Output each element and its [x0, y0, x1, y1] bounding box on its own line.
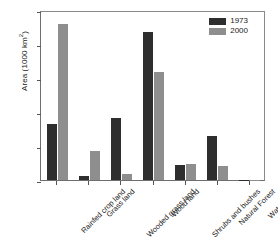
- bar-group: [73, 12, 105, 180]
- bar-series-container: [41, 12, 264, 180]
- bar-2000: [90, 151, 100, 180]
- bar-1973: [143, 32, 153, 180]
- bar-2000: [186, 164, 196, 180]
- legend-swatch-1973: [209, 18, 226, 25]
- legend-label-1973: 1973: [230, 17, 248, 25]
- x-axis-tick: [217, 181, 218, 185]
- bar-1973: [207, 136, 217, 180]
- x-axis-tick: [88, 181, 89, 185]
- bar-1973: [175, 165, 185, 180]
- x-axis-tick: [153, 181, 154, 185]
- bar-1973: [111, 118, 121, 180]
- y-axis-title-tail: ): [20, 31, 29, 34]
- legend-item: 2000: [209, 27, 248, 35]
- bar-2000: [122, 174, 132, 180]
- x-axis-tick: [249, 181, 250, 185]
- plot-area: 1973 2000 0246810: [40, 11, 265, 181]
- y-axis-title-text: Area (1000 km: [20, 37, 29, 91]
- y-axis-title: Area (1000 km2): [17, 6, 31, 116]
- y-axis-tick: [37, 182, 41, 183]
- legend-label-2000: 2000: [230, 27, 248, 35]
- y-axis-tick: [37, 12, 41, 13]
- x-axis-tick: [120, 181, 121, 185]
- x-axis-tick: [185, 181, 186, 185]
- bar-group: [41, 12, 73, 180]
- bar-2000: [250, 180, 260, 181]
- y-axis-tick: [37, 114, 41, 115]
- y-axis-tick: [37, 80, 41, 81]
- bar-2000: [58, 24, 68, 180]
- bar-2000: [154, 72, 164, 180]
- bar-group: [170, 12, 202, 180]
- x-axis-label: Rainfed crop land: [79, 187, 127, 235]
- bar-group: [202, 12, 234, 180]
- y-axis-tick: [37, 148, 41, 149]
- legend-item: 1973: [209, 17, 248, 25]
- chart-figure: Area (1000 km2) 1973 2000 0246810 Rainfe…: [0, 0, 278, 243]
- bar-2000: [218, 166, 228, 180]
- x-axis-tick: [56, 181, 57, 185]
- bar-group: [105, 12, 137, 180]
- y-axis-tick: [37, 46, 41, 47]
- bar-group: [234, 12, 266, 180]
- bar-group: [137, 12, 169, 180]
- bar-1973: [47, 124, 57, 180]
- y-axis-title-exponent: 2: [18, 34, 24, 37]
- legend-swatch-2000: [209, 28, 226, 35]
- chart-legend: 1973 2000: [209, 17, 248, 35]
- bar-1973: [79, 176, 89, 180]
